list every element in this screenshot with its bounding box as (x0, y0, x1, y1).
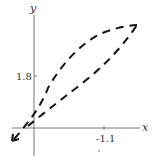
x-axis-label: x (142, 121, 149, 134)
lower-dashed-curve (28, 25, 137, 126)
y-tick-label: 1.8 (16, 71, 32, 82)
chart-figure: y x 1.8 -1.1 (0, 0, 165, 164)
y-axis-label: y (29, 2, 37, 15)
x-tick-label: -1.1 (96, 133, 115, 144)
stray-dot (98, 150, 100, 152)
